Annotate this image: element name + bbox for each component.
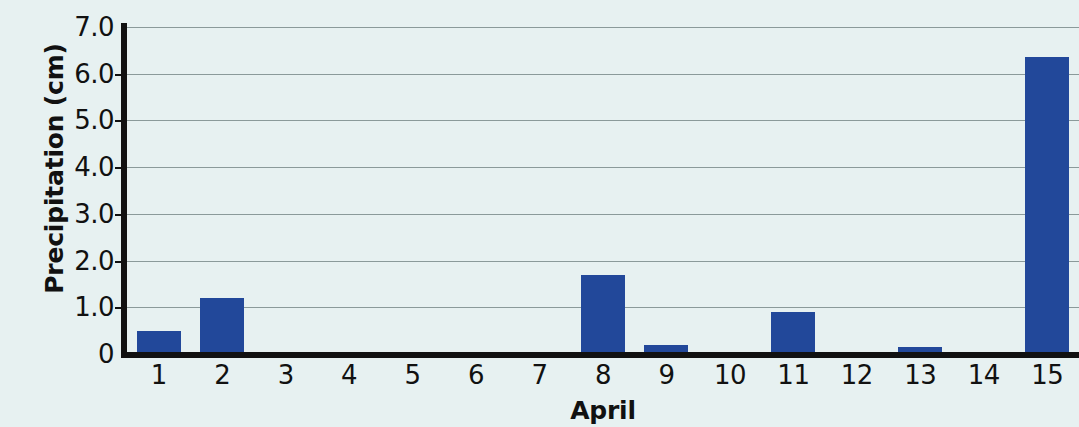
- x-axis-title: April: [127, 396, 1079, 425]
- x-axis-tick-label: 9: [658, 362, 674, 388]
- y-axis-tick-label: 4.0: [26, 154, 114, 180]
- x-axis-tick-label: 14: [968, 362, 1000, 388]
- x-axis-tick-label: 4: [341, 362, 357, 388]
- x-axis-tick-label: 12: [841, 362, 873, 388]
- y-axis-tick-mark: [115, 214, 123, 216]
- x-axis-tick-label: 3: [278, 362, 294, 388]
- x-axis-tick-label: 2: [214, 362, 230, 388]
- x-axis-tick-label: 15: [1031, 362, 1063, 388]
- x-axis-line: [121, 352, 1079, 358]
- x-axis-tick-label: 6: [468, 362, 484, 388]
- x-axis-tick-label: 5: [405, 362, 421, 388]
- y-axis-tick-mark: [115, 307, 123, 309]
- x-axis-tick-label: 10: [714, 362, 746, 388]
- y-axis-tick-label: 5.0: [26, 107, 114, 133]
- y-axis-tick-label: 1.0: [26, 294, 114, 320]
- bar: [200, 298, 244, 354]
- y-axis-tick-labels: 01.02.03.04.05.06.07.0: [26, 0, 114, 427]
- x-axis-tick-label: 11: [777, 362, 809, 388]
- y-axis-tick-label: 3.0: [26, 201, 114, 227]
- y-axis-tick-mark: [115, 261, 123, 263]
- x-axis-tick-label: 13: [904, 362, 936, 388]
- precipitation-bar-chart: Precipitation (cm) 01.02.03.04.05.06.07.…: [0, 0, 1079, 427]
- x-axis-tick-label: 1: [151, 362, 167, 388]
- y-axis-tick-label: 7.0: [26, 14, 114, 40]
- y-axis-tick-label: 0: [26, 341, 114, 367]
- bar: [771, 312, 815, 354]
- bar: [1025, 57, 1069, 354]
- bar: [581, 275, 625, 354]
- y-axis-tick-mark: [115, 120, 123, 122]
- x-axis-tick-label: 8: [595, 362, 611, 388]
- y-axis-tick-mark: [115, 74, 123, 76]
- x-axis-tick-label: 7: [532, 362, 548, 388]
- bars-layer: [127, 27, 1079, 354]
- y-axis-tick-label: 2.0: [26, 248, 114, 274]
- bar: [137, 331, 181, 354]
- y-axis-tick-label: 6.0: [26, 61, 114, 87]
- x-axis-tick-labels: 123456789101112131415: [127, 362, 1079, 396]
- y-axis-tick-mark: [115, 167, 123, 169]
